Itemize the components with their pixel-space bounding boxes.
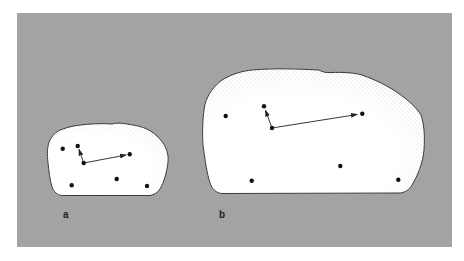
point-dot xyxy=(61,147,65,151)
point-dot xyxy=(360,112,364,116)
point-dot xyxy=(145,184,149,188)
panel-label-b: b xyxy=(219,209,225,220)
diagram-figure: a b xyxy=(0,0,464,261)
point-dot xyxy=(128,152,132,156)
point-dot xyxy=(82,161,86,165)
point-dot xyxy=(250,179,254,183)
point-dot xyxy=(396,178,400,182)
point-dot xyxy=(76,144,80,148)
point-dot xyxy=(338,164,342,168)
panel-label-a: a xyxy=(63,209,69,220)
point-dot xyxy=(115,177,119,181)
point-dot xyxy=(262,104,266,108)
point-dot xyxy=(224,114,228,118)
point-dot xyxy=(70,183,74,187)
point-dot xyxy=(270,126,274,130)
